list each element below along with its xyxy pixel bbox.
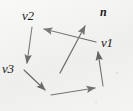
label-n: n xyxy=(100,6,106,18)
polygon-edges xyxy=(24,27,103,95)
edge-bottom-left xyxy=(24,70,45,90)
edge-left-v3 xyxy=(27,27,32,63)
normal-vector-n xyxy=(60,26,85,73)
vector-diagram-figure: v1 v2 v3 n xyxy=(0,0,133,111)
edge-top-v2 xyxy=(44,29,96,42)
label-v2: v2 xyxy=(22,9,34,22)
normal-vector-shaft xyxy=(60,26,85,73)
diagram-canvas xyxy=(0,0,133,111)
edge-bottom-right xyxy=(51,88,95,95)
label-v3: v3 xyxy=(2,62,14,75)
label-v1: v1 xyxy=(101,36,113,49)
edge-right-v1 xyxy=(98,52,103,86)
